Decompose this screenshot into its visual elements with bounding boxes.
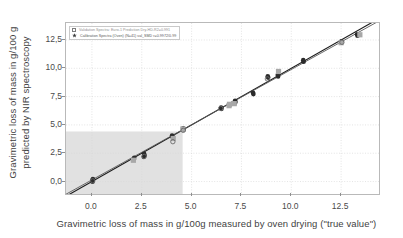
x-tick-mark: [240, 193, 241, 196]
y-tick-mark: [62, 152, 65, 153]
data-point: [232, 101, 237, 106]
y-tick-mark: [62, 181, 65, 182]
chart-legend: Validation Spectra: Euro-1 Prediction Dr…: [69, 26, 180, 40]
data-point: [227, 102, 232, 107]
plot-area: Validation Spectra: Euro-1 Prediction Dr…: [65, 22, 380, 195]
y-tick-mark: [62, 39, 65, 40]
x-tick-label: 12.5: [332, 201, 349, 211]
x-tick-mark: [91, 193, 92, 196]
filled-star-icon: [72, 33, 77, 38]
x-axis-tick-labels: 0.02.55.07.510.012.5: [0, 201, 403, 215]
y-tick-label: 0,0: [38, 176, 62, 186]
y-tick-label: 5,0: [38, 119, 62, 129]
x-tick-mark: [340, 193, 341, 196]
y-axis-title-line1: Gravimetric loss of mass in g/100 g: [8, 27, 21, 179]
data-point: [276, 69, 281, 74]
x-tick-mark: [191, 193, 192, 196]
chart-figure: Gravimetric loss of mass in g/100 g pred…: [0, 0, 403, 238]
x-tick-mark: [290, 193, 291, 196]
y-axis-title-line2: predicted by NIR spectroscopy: [20, 27, 33, 179]
plot-canvas: [66, 23, 379, 194]
open-square-icon: [72, 28, 76, 32]
x-tick-label: 0.0: [85, 201, 97, 211]
x-tick-label: 5.0: [185, 201, 197, 211]
x-tick-mark: [141, 193, 142, 196]
y-tick-label: 10,0: [38, 62, 62, 72]
y-tick-label: 2,5: [38, 147, 62, 157]
data-point: [131, 158, 136, 163]
y-axis-title: Gravimetric loss of mass in g/100 g pred…: [0, 0, 40, 205]
legend-item-validation: Validation Spectra: Euro-1 Prediction Dr…: [72, 28, 176, 32]
data-point: [357, 32, 362, 37]
x-tick-label: 10.0: [282, 201, 299, 211]
x-axis-title: Gravimetric loss of mass in g/100g measu…: [30, 218, 403, 229]
y-tick-label: 12,5: [38, 34, 62, 44]
y-tick-mark: [62, 67, 65, 68]
data-point: [301, 59, 306, 64]
legend-label-validation: Validation Spectra: Euro-1 Prediction Dr…: [79, 28, 170, 32]
legend-item-calibration: Calibration Spectra (Oven) (N=41) val_SM…: [72, 33, 176, 38]
data-point: [276, 74, 281, 79]
legend-label-calibration: Calibration Spectra (Oven) (N=41) val_SM…: [80, 34, 176, 38]
y-tick-mark: [62, 124, 65, 125]
y-tick-label: 7,5: [38, 91, 62, 101]
x-tick-label: 7.5: [235, 201, 247, 211]
y-tick-mark: [62, 96, 65, 97]
data-point: [251, 92, 256, 97]
x-tick-label: 2.5: [135, 201, 147, 211]
